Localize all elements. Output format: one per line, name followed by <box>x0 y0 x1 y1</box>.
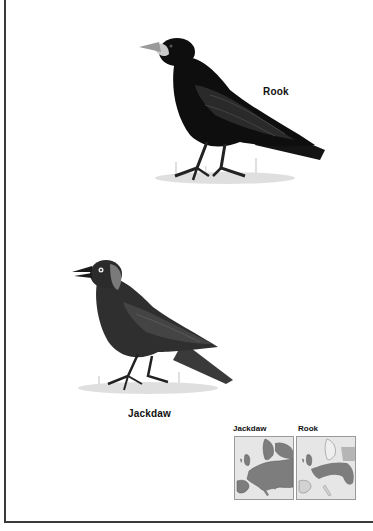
rook-map-title: Rook <box>298 424 318 433</box>
europe-map-jackdaw <box>235 437 293 499</box>
page-border-bottom <box>4 521 373 523</box>
page-border-left <box>4 0 6 523</box>
rook-range-map <box>296 436 356 500</box>
jackdaw-range-map <box>234 436 294 500</box>
rook-label: Rook <box>263 86 289 97</box>
europe-map-rook <box>297 437 355 499</box>
jackdaw-illustration <box>68 252 238 402</box>
jackdaw-label: Jackdaw <box>128 408 171 419</box>
jackdaw-map-title: Jackdaw <box>233 424 266 433</box>
rook-illustration <box>135 30 335 190</box>
